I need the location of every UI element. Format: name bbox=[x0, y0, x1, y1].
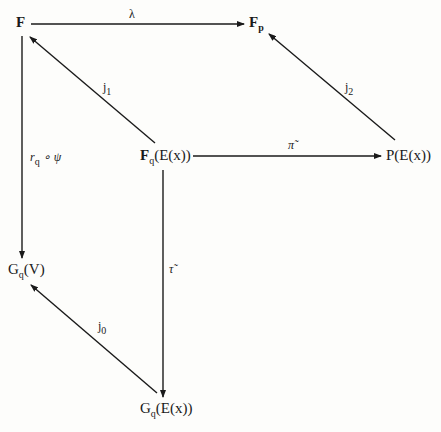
label-j0: j0 bbox=[98, 319, 106, 334]
node-GqEx-rest: (E(x)) bbox=[156, 400, 193, 416]
label-rq-psi-sub: q bbox=[35, 156, 40, 167]
node-PEx: P(E(x)) bbox=[386, 147, 431, 164]
node-FqEx: Fq(E(x)) bbox=[140, 147, 191, 164]
node-FqEx-sub: q bbox=[149, 155, 154, 166]
label-lambda: λ bbox=[129, 7, 135, 22]
label-j1-sub: 1 bbox=[106, 86, 111, 97]
label-pi: π̃ bbox=[288, 138, 294, 153]
arrow-j0 bbox=[31, 285, 157, 393]
node-GqV-main: G bbox=[8, 261, 19, 277]
label-rq-psi-rest: ∘ ψ bbox=[40, 150, 61, 164]
node-GqV-sub: q bbox=[19, 269, 24, 280]
node-F: F bbox=[16, 14, 25, 31]
label-rq-psi: rq ∘ ψ bbox=[30, 150, 61, 165]
arrow-j1 bbox=[30, 37, 155, 143]
node-GqEx-sub: q bbox=[151, 408, 156, 419]
node-Fp: Fp bbox=[249, 14, 264, 31]
arrow-j2 bbox=[269, 34, 395, 140]
label-j1: j1 bbox=[103, 80, 111, 95]
node-GqV: Gq(V) bbox=[8, 261, 45, 278]
diagram-arrows bbox=[0, 0, 441, 432]
node-Fp-sub: p bbox=[258, 22, 264, 33]
label-rq-psi-main: r bbox=[30, 150, 35, 164]
label-tau: τ̃ bbox=[169, 262, 173, 277]
label-lambda-text: λ bbox=[129, 7, 135, 21]
label-tau-text: τ̃ bbox=[169, 262, 173, 276]
label-j2-sub: 2 bbox=[348, 86, 353, 97]
node-F-text: F bbox=[16, 14, 25, 30]
node-GqV-rest: (V) bbox=[24, 261, 45, 277]
label-pi-text: π̃ bbox=[288, 138, 294, 152]
label-j2: j2 bbox=[345, 80, 353, 95]
node-GqEx: Gq(E(x)) bbox=[140, 400, 193, 417]
node-Fp-main: F bbox=[249, 14, 258, 30]
node-FqEx-main: F bbox=[140, 147, 149, 163]
node-FqEx-rest: (E(x)) bbox=[154, 147, 191, 163]
node-PEx-text: P(E(x)) bbox=[386, 147, 431, 163]
node-GqEx-main: G bbox=[140, 400, 151, 416]
label-j0-sub: 0 bbox=[101, 325, 106, 336]
